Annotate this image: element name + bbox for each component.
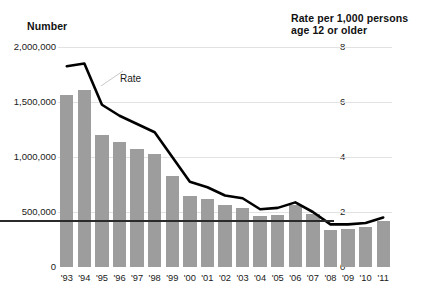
x-axis-tick-label: '94 bbox=[76, 272, 94, 286]
x-axis-tick-label: '99 bbox=[163, 272, 181, 286]
x-axis-tick-label: '09 bbox=[339, 272, 357, 286]
x-axis-tick-label: '98 bbox=[146, 272, 164, 286]
x-axis-tick-label: '95 bbox=[93, 272, 111, 286]
x-axis-tick-label: '93 bbox=[58, 272, 76, 286]
x-axis-tick-label: '00 bbox=[181, 272, 199, 286]
x-axis-tick-label: '11 bbox=[374, 272, 392, 286]
x-axis-tick-label: '96 bbox=[111, 272, 129, 286]
x-axis-tick-label: '06 bbox=[287, 272, 305, 286]
x-axis-tick-label: '05 bbox=[269, 272, 287, 286]
x-axis-tick-label: '97 bbox=[128, 272, 146, 286]
left-axis-tick-label: 0 bbox=[0, 262, 56, 272]
right-axis-title: Rate per 1,000 persons age 12 or older bbox=[291, 12, 408, 36]
left-axis-title: Number bbox=[27, 20, 67, 32]
x-axis-tick-label: '01 bbox=[199, 272, 217, 286]
x-axis-tick-label: '02 bbox=[216, 272, 234, 286]
left-axis-tick-label: 2,000,000 bbox=[0, 42, 56, 52]
left-axis-tick-label: 1,000,000 bbox=[0, 152, 56, 162]
x-axis-tick-label: '04 bbox=[251, 272, 269, 286]
x-axis-baseline bbox=[0, 220, 334, 222]
rate-series-label: Rate bbox=[120, 73, 141, 84]
x-axis-tick-label: '07 bbox=[304, 272, 322, 286]
chart-container: Number Rate per 1,000 persons age 12 or … bbox=[0, 0, 424, 305]
x-axis-tick-label: '08 bbox=[322, 272, 340, 286]
left-axis-tick-label: 1,500,000 bbox=[0, 97, 56, 107]
x-axis-tick-label: '03 bbox=[234, 272, 252, 286]
x-axis-tick-labels: '93'94'95'96'97'98'99'00'01'02'03'04'05'… bbox=[58, 272, 392, 286]
left-axis-tick-label: 500,000 bbox=[0, 207, 56, 217]
x-axis-tick-label: '10 bbox=[357, 272, 375, 286]
